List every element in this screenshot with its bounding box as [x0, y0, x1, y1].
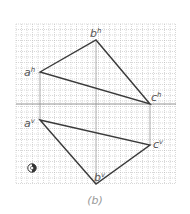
label-b-h: bh: [90, 27, 101, 40]
label-a-h: ah: [24, 66, 35, 79]
label-c-h: ch: [151, 91, 162, 104]
projection-diagram: ah bh ch av bv cv: [0, 0, 190, 214]
label-c-v: cv: [153, 138, 164, 151]
first-angle-projection-icon: [28, 164, 36, 172]
triangle-horizontal-projection: [40, 40, 150, 104]
figure-caption: (b): [0, 194, 190, 207]
label-a-v: av: [24, 117, 36, 130]
